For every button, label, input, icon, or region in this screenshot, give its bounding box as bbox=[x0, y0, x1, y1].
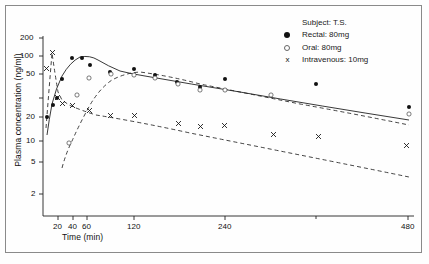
x-tick-120: 120 bbox=[127, 222, 141, 231]
y-axis-label: Plasma concentration (ng/ml) bbox=[13, 45, 23, 175]
x-tick-40: 40 bbox=[68, 222, 77, 231]
x-axis-ticks bbox=[58, 216, 408, 220]
legend-label-intravenous: Intravenous: 10mg bbox=[302, 55, 368, 64]
legend-label-oral: Oral: 80mg bbox=[302, 43, 342, 52]
legend-item-oral: Oral: 80mg bbox=[280, 42, 368, 54]
y-axis-ticks bbox=[39, 38, 43, 194]
x-tick-480: 480 bbox=[401, 222, 415, 231]
x-tick-240: 240 bbox=[218, 222, 232, 231]
series-points-oral bbox=[67, 72, 411, 145]
y-tick-200: 200 bbox=[20, 33, 34, 42]
series-line-oral bbox=[62, 72, 409, 168]
legend-subject-label: Subject: T.S. bbox=[302, 18, 347, 27]
chart-legend: Subject: T.S. Rectal: 80mg Oral: 80mg x … bbox=[280, 17, 368, 67]
legend-label-rectal: Rectal: 80mg bbox=[302, 30, 349, 39]
y-tick-2: 2 bbox=[31, 189, 36, 198]
open-circle-icon bbox=[284, 45, 290, 51]
x-tick-20: 20 bbox=[53, 222, 62, 231]
y-tick-20: 20 bbox=[26, 112, 35, 121]
y-tick-50: 50 bbox=[26, 69, 35, 78]
cross-icon: x bbox=[284, 57, 291, 63]
figure-container: 200 100 50 20 10 5 2 20 40 60 120 240 48… bbox=[0, 0, 429, 264]
filled-circle-icon bbox=[284, 32, 290, 38]
series-line-rectal bbox=[47, 56, 409, 135]
x-axis-label: Time (min) bbox=[62, 232, 103, 242]
y-tick-10: 10 bbox=[26, 136, 35, 145]
legend-item-rectal: Rectal: 80mg bbox=[280, 29, 368, 41]
series-line-intravenous bbox=[46, 53, 409, 177]
legend-subject: Subject: T.S. bbox=[280, 17, 368, 29]
y-tick-5: 5 bbox=[31, 157, 36, 166]
legend-item-intravenous: x Intravenous: 10mg bbox=[280, 54, 368, 66]
x-tick-60: 60 bbox=[82, 222, 91, 231]
